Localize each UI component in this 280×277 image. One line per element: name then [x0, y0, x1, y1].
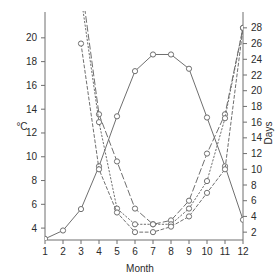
data-point-marker	[132, 206, 137, 211]
data-point-marker	[204, 115, 209, 120]
data-point-marker	[204, 178, 209, 183]
y-tick-label-right: 14	[251, 132, 263, 143]
x-tick-label: 9	[186, 246, 192, 257]
y-tick-label-right: 26	[251, 38, 263, 49]
data-point-marker	[132, 230, 137, 235]
x-tick-label: 3	[78, 246, 84, 257]
x-tick-label: 6	[132, 246, 138, 257]
y-tick-label-right: 18	[251, 101, 263, 112]
data-point-marker	[168, 52, 173, 57]
chart-container: 4681012141618202468101214161820222426281…	[0, 0, 280, 277]
y-tick-label-right: 22	[251, 70, 263, 81]
data-point-marker	[204, 190, 209, 195]
y-axis-label-right: Days	[263, 122, 274, 145]
y-tick-label-right: 28	[251, 22, 263, 33]
x-tick-label: 5	[114, 246, 120, 257]
y-tick-label-right: 16	[251, 117, 263, 128]
y-tick-label-left: 10	[26, 151, 38, 162]
chart-background	[0, 0, 280, 277]
data-point-marker	[78, 41, 83, 46]
data-point-marker	[96, 167, 101, 172]
data-point-marker	[186, 206, 191, 211]
y-tick-label-left: 4	[31, 223, 37, 234]
x-tick-label: 12	[237, 246, 249, 257]
y-axis-label-left: °C	[16, 121, 27, 132]
x-tick-label: 7	[150, 246, 156, 257]
data-point-marker	[96, 120, 101, 125]
data-point-marker	[186, 198, 191, 203]
x-tick-label: 11	[220, 246, 231, 257]
y-tick-label-right: 12	[251, 148, 263, 159]
data-point-marker	[186, 214, 191, 219]
y-tick-label-left: 6	[31, 199, 37, 210]
data-point-marker	[114, 210, 119, 215]
y-tick-label-left: 16	[26, 80, 38, 91]
data-point-marker	[114, 159, 119, 164]
y-tick-label-right: 2	[251, 227, 257, 238]
data-point-marker	[78, 206, 83, 211]
data-point-marker	[150, 222, 155, 227]
y-tick-label-right: 8	[251, 180, 257, 191]
y-tick-label-left: 20	[26, 32, 38, 43]
data-point-marker	[186, 66, 191, 71]
y-tick-label-right: 10	[251, 164, 263, 175]
data-point-marker	[132, 222, 137, 227]
data-point-marker	[114, 114, 119, 119]
y-tick-label-left: 8	[31, 175, 37, 186]
y-tick-label-right: 6	[251, 195, 257, 206]
data-point-marker	[222, 167, 227, 172]
data-point-marker	[150, 52, 155, 57]
y-tick-label-right: 24	[251, 54, 263, 65]
data-point-marker	[222, 116, 227, 121]
x-tick-label: 4	[96, 246, 102, 257]
data-point-marker	[132, 69, 137, 74]
x-tick-label: 8	[168, 246, 174, 257]
x-tick-label: 10	[201, 246, 213, 257]
data-point-marker	[204, 151, 209, 156]
x-tick-label: 2	[60, 246, 66, 257]
x-axis-label: Month	[126, 263, 154, 274]
y-tick-label-left: 14	[26, 104, 38, 115]
data-point-marker	[168, 224, 173, 229]
data-point-marker	[60, 228, 65, 233]
x-tick-label: 1	[42, 246, 48, 257]
y-tick-label-left: 18	[26, 56, 38, 67]
y-tick-label-right: 20	[251, 85, 263, 96]
data-point-marker	[96, 112, 101, 117]
y-tick-label-right: 4	[251, 211, 257, 222]
data-point-marker	[150, 230, 155, 235]
dual-axis-line-chart: 4681012141618202468101214161820222426281…	[0, 0, 280, 277]
